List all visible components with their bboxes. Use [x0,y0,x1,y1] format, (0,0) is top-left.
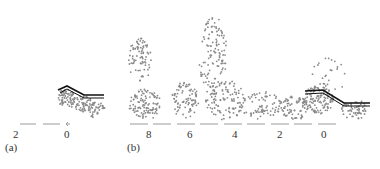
panel-a-axis [20,122,70,126]
figure-canvas [0,0,380,169]
panel-a-tick-0: 0 [64,128,70,140]
panel-b-tick-8: 8 [146,128,152,140]
panel-b-particles [128,17,367,120]
panel-b-tick-0: 0 [321,128,327,140]
panel-b-tick-4: 4 [232,128,238,140]
panel-b-tick-6: 6 [187,128,193,140]
panel-b-tick-2: 2 [277,128,283,140]
panel-b-label: (b) [127,141,140,153]
panel-a-label: (a) [5,141,17,153]
panel-a-tick-2: 2 [13,128,19,140]
